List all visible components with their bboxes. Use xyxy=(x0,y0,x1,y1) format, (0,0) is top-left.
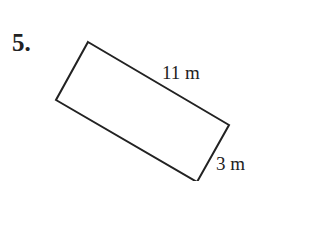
length-label: 11 m xyxy=(162,63,200,82)
width-label: 3 m xyxy=(216,154,245,173)
rectangle-outline xyxy=(56,42,229,181)
